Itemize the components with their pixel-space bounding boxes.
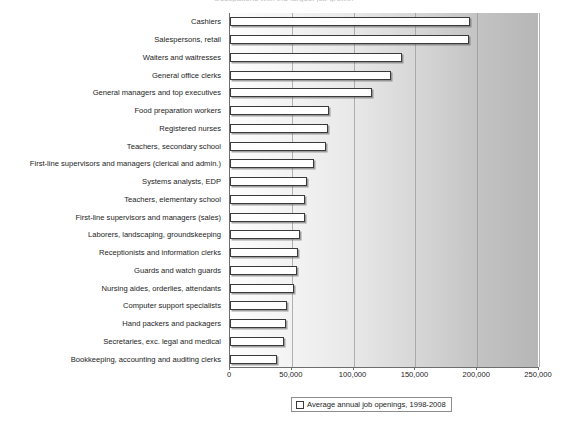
- bar[interactable]: [230, 248, 298, 257]
- bar-row: [230, 208, 538, 226]
- bar-row: [230, 297, 538, 315]
- bar[interactable]: [230, 284, 294, 293]
- legend-label: Average annual job openings, 1998-2008: [307, 400, 446, 409]
- bar-row: [230, 350, 538, 368]
- x-tick-label: 100,000: [339, 370, 366, 379]
- bar-row: [230, 31, 538, 49]
- bar-series: [230, 13, 538, 367]
- category-label: Waiters and waitresses: [143, 53, 221, 62]
- bar[interactable]: [230, 337, 284, 346]
- bar[interactable]: [230, 355, 277, 364]
- bar[interactable]: [230, 319, 286, 328]
- bar-row: [230, 155, 538, 173]
- category-label: Secretaries, exc. legal and medical: [103, 337, 221, 346]
- bar-row: [230, 120, 538, 138]
- bar-row: [230, 84, 538, 102]
- category-label: Guards and watch guards: [134, 266, 221, 275]
- bar[interactable]: [230, 213, 305, 222]
- bar[interactable]: [230, 88, 372, 97]
- chart-container: Occupations with the largest job growth …: [0, 0, 567, 422]
- category-label: Laborers, landscaping, groundskeeping: [88, 230, 221, 239]
- bar-row: [230, 262, 538, 280]
- bar-row: [230, 226, 538, 244]
- category-label: Teachers, elementary school: [124, 195, 221, 204]
- legend-swatch-icon: [296, 401, 304, 409]
- bar[interactable]: [230, 71, 391, 80]
- category-axis-labels: CashiersSalespersons, retailWaiters and …: [0, 13, 226, 368]
- category-label: General office clerks: [152, 71, 221, 80]
- bar[interactable]: [230, 177, 307, 186]
- plot-area: [229, 13, 538, 368]
- category-label: Bookkeeping, accounting and auditing cle…: [71, 355, 221, 364]
- bar-row: [230, 66, 538, 84]
- bar[interactable]: [230, 106, 329, 115]
- bar[interactable]: [230, 17, 470, 26]
- chart-legend: Average annual job openings, 1998-2008: [291, 397, 452, 412]
- bar[interactable]: [230, 142, 326, 151]
- category-label: Teachers, secondary school: [127, 142, 221, 151]
- category-label: Computer support specialists: [123, 301, 221, 310]
- category-label: General managers and top executives: [93, 88, 221, 97]
- bar[interactable]: [230, 230, 300, 239]
- bar-row: [230, 137, 538, 155]
- bar-row: [230, 279, 538, 297]
- bar-row: [230, 102, 538, 120]
- category-label: Nursing aides, orderlies, attendants: [102, 284, 221, 293]
- x-tick-label: 50,000: [279, 370, 302, 379]
- category-label: First-line supervisors and managers (cle…: [30, 159, 221, 168]
- bar[interactable]: [230, 301, 287, 310]
- chart-title: Occupations with the largest job growth: [0, 0, 567, 2]
- category-label: First-line supervisors and managers (sal…: [75, 213, 221, 222]
- x-tick-label: 150,000: [401, 370, 428, 379]
- category-label: Systems analysts, EDP: [142, 177, 221, 186]
- value-axis-ticks: 050,000100,000150,000200,000250,000: [0, 370, 567, 382]
- category-label: Registered nurses: [159, 124, 221, 133]
- bar-row: [230, 315, 538, 333]
- bar-row: [230, 191, 538, 209]
- x-tick-label: 250,000: [524, 370, 551, 379]
- bar-row: [230, 13, 538, 31]
- bar[interactable]: [230, 35, 469, 44]
- bar[interactable]: [230, 195, 305, 204]
- x-tick-label: 0: [227, 370, 231, 379]
- bar[interactable]: [230, 124, 328, 133]
- bar-row: [230, 173, 538, 191]
- category-label: Cashiers: [191, 17, 221, 26]
- category-label: Receptionists and information clerks: [99, 248, 221, 257]
- category-label: Hand packers and packagers: [122, 319, 221, 328]
- bar[interactable]: [230, 159, 314, 168]
- bar-row: [230, 49, 538, 67]
- bar[interactable]: [230, 53, 402, 62]
- bar-row: [230, 333, 538, 351]
- gridline: [539, 13, 540, 367]
- category-label: Food preparation workers: [134, 106, 221, 115]
- bar[interactable]: [230, 266, 297, 275]
- bar-row: [230, 244, 538, 262]
- category-label: Salespersons, retail: [154, 35, 221, 44]
- x-tick-label: 200,000: [462, 370, 489, 379]
